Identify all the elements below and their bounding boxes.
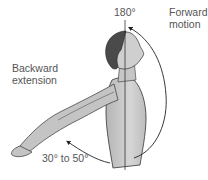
- backward-extension-label: Backward extension: [12, 62, 58, 86]
- forward-motion-label: Forward motion: [169, 6, 208, 30]
- bottom-angle-label: 30° to 50°: [42, 152, 88, 164]
- top-angle-label: 180°: [114, 6, 136, 18]
